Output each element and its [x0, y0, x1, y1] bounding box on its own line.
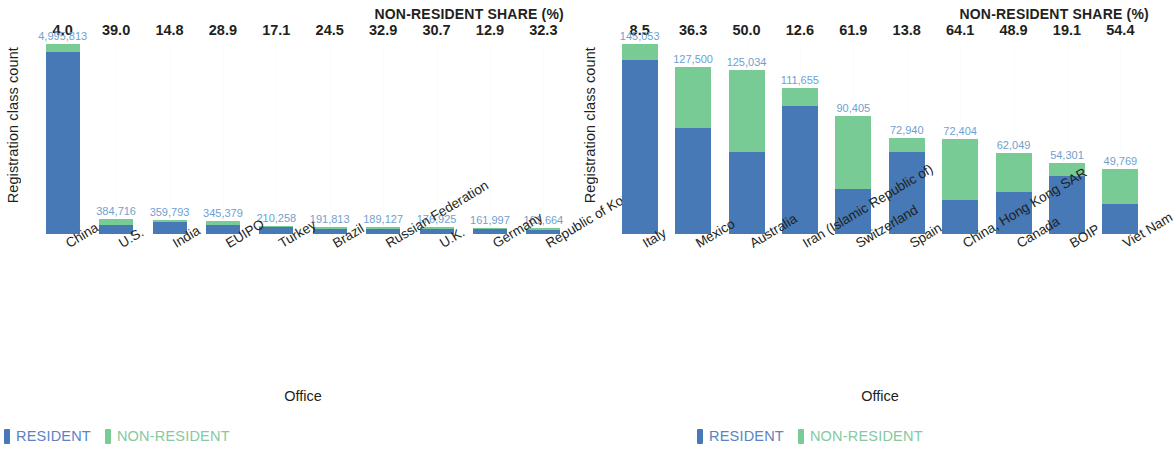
- non-resident-share-value: 14.8: [143, 22, 196, 38]
- x-tick-labels: ItalyMexicoAustraliaIran (Islamic Republ…: [613, 236, 1147, 366]
- bar-column[interactable]: 12.6111,655: [773, 44, 826, 234]
- bar-column[interactable]: 32.9189,127: [356, 44, 409, 234]
- non-resident-share-header: NON-RESIDENT SHARE (%): [959, 6, 1149, 22]
- non-resident-share-value: 36.3: [666, 22, 719, 38]
- legend-item-resident[interactable]: RESIDENT: [697, 428, 784, 444]
- plot-area: 4.04,995,81339.0384,71614.8359,79328.934…: [36, 44, 570, 234]
- gridline: [383, 44, 384, 234]
- legend-item-non-resident[interactable]: NON-RESIDENT: [798, 428, 923, 444]
- legend-label-non-resident: NON-RESIDENT: [117, 428, 230, 444]
- bar-segment-non-resident[interactable]: [1102, 169, 1138, 204]
- non-resident-share-value: 30.7: [410, 22, 463, 38]
- non-resident-share-value: 61.9: [827, 22, 880, 38]
- y-axis-title: Registration class count: [579, 18, 601, 233]
- non-resident-share-value: 24.5: [303, 22, 356, 38]
- legend-item-resident[interactable]: RESIDENT: [4, 428, 91, 444]
- chart-panel-right: Registration class count NON-RESIDENT SH…: [577, 0, 1153, 455]
- legend-item-non-resident[interactable]: NON-RESIDENT: [105, 428, 230, 444]
- legend-label-resident: RESIDENT: [16, 428, 91, 444]
- non-resident-share-value: 64.1: [933, 22, 986, 38]
- resident-color-swatch: [4, 429, 10, 444]
- stacked-bar[interactable]: [675, 67, 711, 234]
- gridline: [330, 44, 331, 234]
- bar-segment-non-resident[interactable]: [889, 138, 925, 151]
- gridline: [543, 44, 544, 234]
- stacked-bar[interactable]: [942, 139, 978, 234]
- y-axis-title: Registration class count: [2, 18, 24, 233]
- bar-column[interactable]: 28.9345,379: [196, 44, 249, 234]
- bar-segment-non-resident[interactable]: [46, 44, 80, 52]
- stacked-bar[interactable]: [1102, 169, 1138, 234]
- legend: RESIDENT NON-RESIDENT: [697, 428, 923, 444]
- bar-column[interactable]: 54.449,769: [1094, 44, 1147, 234]
- non-resident-share-header: NON-RESIDENT SHARE (%): [374, 6, 564, 22]
- non-resident-color-swatch: [798, 429, 804, 444]
- non-resident-share-value: 39.0: [89, 22, 142, 38]
- x-axis-title: Office: [36, 388, 570, 404]
- non-resident-share-value: 32.9: [356, 22, 409, 38]
- non-resident-share-value: 28.9: [196, 22, 249, 38]
- non-resident-color-swatch: [105, 429, 111, 444]
- non-resident-share-value: 13.8: [880, 22, 933, 38]
- bar-segment-resident[interactable]: [729, 152, 765, 234]
- gridline: [490, 44, 491, 234]
- gridline: [223, 44, 224, 234]
- bar-segment-non-resident[interactable]: [675, 67, 711, 128]
- bar-column[interactable]: 24.5191,813: [303, 44, 356, 234]
- non-resident-share-value: 12.9: [463, 22, 516, 38]
- legend-label-non-resident: NON-RESIDENT: [810, 428, 923, 444]
- non-resident-share-value: 19.1: [1040, 22, 1093, 38]
- bar-total-value-label: 49,769: [1080, 155, 1161, 167]
- legend-label-resident: RESIDENT: [709, 428, 784, 444]
- stacked-bar[interactable]: [622, 44, 658, 234]
- non-resident-share-value: 50.0: [720, 22, 773, 38]
- resident-color-swatch: [697, 429, 703, 444]
- non-resident-share-value: 54.4: [1094, 22, 1147, 38]
- bar-column[interactable]: 8.5145,053: [613, 44, 666, 234]
- non-resident-share-value: 32.3: [517, 22, 570, 38]
- bar-column[interactable]: 50.0125,034: [720, 44, 773, 234]
- non-resident-share-value: 12.6: [773, 22, 826, 38]
- stacked-bar[interactable]: [729, 70, 765, 234]
- chart-panel-left: Registration class count NON-RESIDENT SH…: [0, 0, 576, 455]
- bar-column[interactable]: 32.3161,664: [517, 44, 570, 234]
- bar-segment-resident[interactable]: [675, 128, 711, 234]
- bar-columns: 4.04,995,81339.0384,71614.8359,79328.934…: [36, 44, 570, 234]
- bar-column[interactable]: 12.9161,997: [463, 44, 516, 234]
- bar-column[interactable]: 36.3127,500: [666, 44, 719, 234]
- bar-column[interactable]: 17.1210,258: [250, 44, 303, 234]
- x-tick-labels: ChinaU.S.IndiaEUIPOTurkeyBrazilRussian F…: [36, 236, 570, 366]
- gridline: [276, 44, 277, 234]
- non-resident-share-value: 17.1: [250, 22, 303, 38]
- x-axis-title: Office: [613, 388, 1147, 404]
- bar-column[interactable]: 14.8359,793: [143, 44, 196, 234]
- legend: RESIDENT NON-RESIDENT: [4, 428, 230, 444]
- bar-segment-resident[interactable]: [622, 60, 658, 234]
- bar-column[interactable]: 19.154,301: [1040, 44, 1093, 234]
- non-resident-share-value: 48.9: [987, 22, 1040, 38]
